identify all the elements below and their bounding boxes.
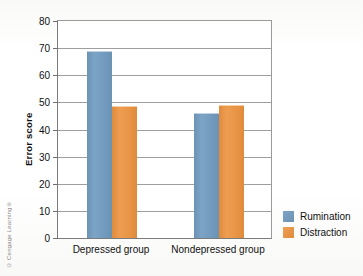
- legend-item-rumination[interactable]: Rumination: [283, 209, 351, 224]
- gridline: [58, 48, 271, 49]
- y-tick-label: 10: [39, 205, 50, 216]
- y-tick-label: 30: [39, 151, 50, 162]
- bar-rumination-0: [87, 51, 112, 238]
- figure-canvas: © Cengage Learning® Error score 01020304…: [0, 0, 363, 276]
- tick-mark: [53, 130, 58, 131]
- x-axis-label-1: Nondepressed group: [171, 244, 264, 255]
- legend-item-distraction[interactable]: Distraction: [283, 225, 351, 240]
- bar-distraction-0: [112, 106, 137, 238]
- tick-mark: [53, 211, 58, 212]
- y-axis-title: Error score: [22, 96, 36, 182]
- tick-mark: [53, 184, 58, 185]
- plot-area: 01020304050607080: [57, 20, 272, 239]
- bar-highlight: [194, 113, 219, 114]
- tick-mark: [53, 75, 58, 76]
- y-tick-label: 80: [39, 16, 50, 27]
- y-tick-label: 70: [39, 43, 50, 54]
- bar-highlight: [87, 51, 112, 52]
- tick-mark: [53, 21, 58, 22]
- bar-highlight: [219, 105, 244, 106]
- y-tick-label: 40: [39, 124, 50, 135]
- tick-mark: [53, 157, 58, 158]
- bar-distraction-1: [219, 105, 244, 238]
- bar-rumination-1: [194, 113, 219, 238]
- y-tick-label: 20: [39, 178, 50, 189]
- x-axis-label-0: Depressed group: [73, 244, 150, 255]
- y-tick-label: 60: [39, 70, 50, 81]
- bar-highlight: [112, 106, 137, 107]
- y-tick-label: 0: [44, 233, 50, 244]
- copyright-credit: © Cengage Learning®: [2, 168, 16, 268]
- legend: RuminationDistraction: [283, 209, 351, 241]
- tick-mark: [53, 48, 58, 49]
- tick-mark: [53, 238, 58, 239]
- legend-label: Distraction: [300, 227, 347, 238]
- tick-mark: [53, 102, 58, 103]
- legend-swatch-rumination-icon: [283, 211, 294, 222]
- legend-label: Rumination: [300, 211, 351, 222]
- legend-swatch-distraction-icon: [283, 227, 294, 238]
- y-tick-label: 50: [39, 97, 50, 108]
